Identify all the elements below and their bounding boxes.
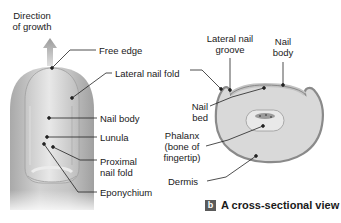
label-line: Direction	[2, 10, 62, 21]
label-line: body	[268, 47, 298, 58]
label-line: Proximal	[100, 156, 137, 167]
label-eponychium: Eponychium	[100, 187, 152, 198]
label-line: groove	[200, 44, 260, 55]
label-line: Phalanx	[158, 130, 206, 141]
label-line: Nail	[180, 101, 208, 112]
label-line: bed	[180, 112, 208, 123]
panel-badge: b	[205, 200, 216, 211]
label-dermis: Dermis	[168, 176, 198, 187]
panel-b-caption: b A cross-sectional view	[205, 199, 339, 211]
cross-section-illustration	[216, 85, 323, 162]
label-line: fingertip)	[158, 152, 206, 163]
label-line: Nail	[268, 36, 298, 47]
label-lateral-nail-groove: Lateral nail groove	[200, 33, 260, 55]
label-proximal-nail-fold: Proximal nail fold	[100, 156, 137, 178]
caption-text: A cross-sectional view	[221, 199, 339, 211]
label-line: (bone of	[158, 141, 206, 152]
label-line: Lateral nail	[200, 33, 260, 44]
label-lateral-nail-fold: Lateral nail fold	[115, 68, 179, 79]
growth-arrow-icon	[43, 38, 57, 66]
label-nail-body-section: Nail body	[268, 36, 298, 58]
label-nail-body: Nail body	[100, 113, 140, 124]
label-free-edge: Free edge	[99, 45, 142, 56]
label-direction-of-growth: Direction of growth	[2, 10, 62, 32]
label-line: of growth	[2, 21, 62, 32]
label-phalanx: Phalanx (bone of fingertip)	[158, 130, 206, 163]
label-nail-bed: Nail bed	[180, 101, 208, 123]
nail-diagram-artwork	[0, 0, 341, 223]
label-line: nail fold	[100, 167, 137, 178]
label-lunula: Lunula	[100, 132, 129, 143]
